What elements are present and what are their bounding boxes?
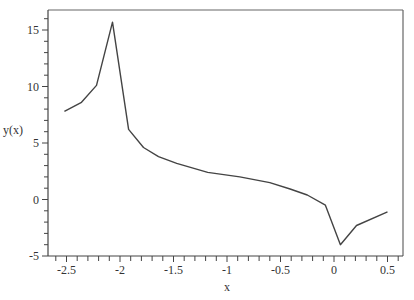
y-tick-label: 15 <box>27 23 39 37</box>
x-tick-label: -2.5 <box>57 263 76 277</box>
y-axis: -5051015 <box>27 19 48 263</box>
data-line <box>64 22 387 245</box>
x-axis-label: x <box>224 280 230 294</box>
y-tick-label: 5 <box>33 136 39 150</box>
plot-frame <box>48 10 403 256</box>
y-axis-label: y(x) <box>3 123 23 137</box>
x-tick-label: -1.5 <box>164 263 183 277</box>
x-axis: -2.5-2-1.5-1-0.500.5 <box>56 256 398 277</box>
y-tick-label: 0 <box>33 193 39 207</box>
x-tick-label: -0.5 <box>271 263 290 277</box>
y-tick-label: -5 <box>29 249 39 263</box>
x-tick-label: 0 <box>331 263 337 277</box>
x-tick-label: -2 <box>115 263 125 277</box>
x-tick-label: 0.5 <box>380 263 395 277</box>
y-tick-label: 10 <box>27 80 39 94</box>
line-chart: -5051015 -2.5-2-1.5-1-0.500.5 x y(x) <box>0 0 414 300</box>
x-tick-label: -1 <box>222 263 232 277</box>
